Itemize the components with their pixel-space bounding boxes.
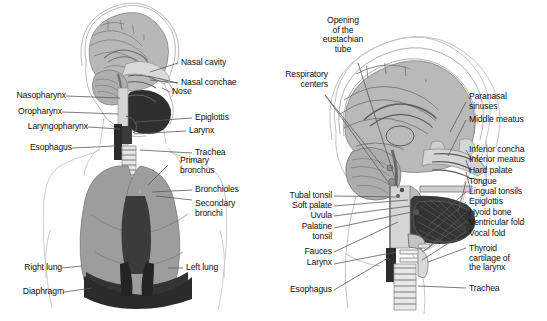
anatomy-artwork (0, 0, 547, 321)
leader-oropharynx (62, 112, 118, 114)
label-thyroid-cartilage-of-larynx: Thyroid cartilage of the larynx (469, 244, 510, 273)
label-trachea-right-panel: Trachea (469, 284, 500, 294)
label-epiglottis-left: Epiglottis (195, 113, 229, 123)
label-nasopharynx: Nasopharynx (0, 91, 66, 101)
label-palatine-tonsil: Palatine tonsil (262, 222, 332, 241)
label-esophagus-left: Esophagus (0, 143, 72, 153)
label-epiglottis-right-panel: Epiglottis (469, 197, 503, 207)
label-ventricular-fold: Ventricular fold (469, 218, 524, 228)
label-fauces: Fauces (262, 247, 332, 257)
label-primary-bronchus: Primary bronchus (180, 156, 215, 175)
leader-thyroid-cartilage (428, 248, 466, 262)
label-hard-palate: Hard palate (469, 166, 512, 176)
label-oropharynx: Oropharynx (0, 107, 62, 117)
right-panel-brain (340, 56, 475, 202)
label-inferior-meatus: Inferior meatus (469, 155, 525, 165)
label-paranasal-sinuses: Paranasal sinuses (469, 92, 507, 111)
label-larynx-right-panel: Larynx (262, 258, 332, 268)
respiratory-system-figure: Nasopharynx Oropharynx Laryngopharynx Es… (0, 0, 547, 321)
leader-trachea (140, 150, 192, 153)
label-vocal-fold: Vocal fold (469, 229, 505, 239)
label-laryngopharynx: Laryngopharynx (0, 122, 88, 132)
leader-nose (162, 88, 170, 92)
leader-trachea-r (418, 286, 466, 288)
leader-esophagus (72, 146, 116, 148)
label-right-lung: Right lung (0, 263, 62, 273)
label-eustachian-tube-opening: Opening of the eustachian tube (300, 16, 386, 54)
label-esophagus-right-panel: Esophagus (258, 285, 332, 295)
label-nose: Nose (172, 87, 192, 97)
label-left-lung: Left lung (186, 263, 218, 273)
label-middle-meatus: Middle meatus (469, 115, 524, 125)
leader-fauces (334, 222, 398, 252)
leader-right-lung (62, 266, 82, 268)
label-uvula: Uvula (262, 211, 332, 221)
label-respiratory-centers: Respiratory centers (266, 70, 328, 89)
label-nasal-cavity: Nasal cavity (181, 58, 226, 68)
label-diaphragm: Diaphragm (0, 287, 64, 297)
label-larynx-left: Larynx (189, 126, 214, 136)
label-secondary-bronchi: Secondary bronchi (195, 199, 235, 218)
label-bronchioles: Bronchioles (195, 185, 239, 195)
